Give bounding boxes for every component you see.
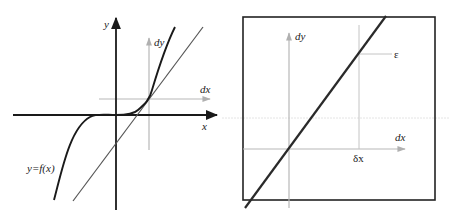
y-axis-label: y <box>103 18 109 30</box>
zoomed-curve <box>245 16 386 208</box>
epsilon-label: ε <box>394 48 399 60</box>
x-axis-label: x <box>201 120 207 132</box>
curve-label: y=f(x) <box>26 162 55 175</box>
zoom-dx-label: dx <box>395 131 406 143</box>
right-panel: dy dx δx ε <box>243 16 435 208</box>
left-panel: y x dy dx y=f(x) <box>13 18 217 210</box>
zoom-dy-label: dy <box>295 30 306 42</box>
dy-label: dy <box>154 36 165 48</box>
calculus-zoom-diagram: y x dy dx y=f(x) dy dx δx ε <box>0 0 449 217</box>
tangent-line <box>73 27 203 201</box>
curve-f-of-x <box>54 27 175 200</box>
delta-x-label: δx <box>353 152 364 164</box>
dx-label: dx <box>200 83 211 95</box>
